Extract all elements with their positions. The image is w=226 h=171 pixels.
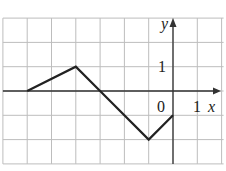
x-tick-label-1: 1 [193,98,201,115]
y-tick-label-1: 1 [158,58,166,75]
x-axis-arrow-icon [213,88,221,95]
y-axis-label: y [159,15,169,33]
x-axis-label: x [207,98,215,115]
graph: yx101 [0,0,226,171]
origin-label: 0 [157,98,165,115]
y-axis-arrow-icon [170,18,177,27]
